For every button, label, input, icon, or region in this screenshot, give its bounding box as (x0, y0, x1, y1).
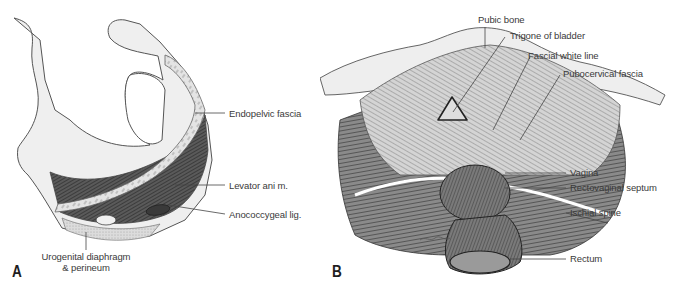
label-endopelvic-fascia: Endopelvic fascia (229, 108, 301, 119)
label-rectovaginal-septum: Rectovaginal septum (570, 182, 657, 193)
label-pubic-bone: Pubic bone (478, 14, 525, 25)
label-urogenital-diaphragm: Urogenital diaphragm & perineum (36, 251, 136, 273)
label-urogenital-line2: & perineum (36, 262, 136, 273)
panel-b-illustration (320, 0, 675, 286)
panel-a-illustration (0, 0, 330, 286)
label-anococcygeal-lig: Anococcygeal lig. (229, 209, 301, 220)
label-ischial-spine: Ischial spine (570, 207, 621, 218)
obturator-foramen (125, 73, 165, 143)
panel-b-pelvic-floor-top-view: Pubic bone Trigone of bladder Fascial wh… (320, 0, 675, 286)
vagina-structure (440, 165, 510, 221)
panel-letter-a: A (12, 263, 22, 281)
urethra-vagina-opening (96, 215, 116, 225)
label-vagina: Vagina (570, 167, 598, 178)
label-levator-ani: Levator ani m. (229, 180, 288, 191)
label-pubocervical-fascia: Pubocervical fascia (563, 68, 643, 79)
label-trigone-of-bladder: Trigone of bladder (510, 30, 585, 41)
panel-a-pelvic-floor-side-view: Endopelvic fascia Levator ani m. Anococc… (0, 0, 330, 286)
label-rectum: Rectum (570, 253, 602, 264)
rectum-lumen (450, 251, 510, 273)
panel-letter-b: B (332, 263, 342, 281)
label-fascial-white-line: Fascial white line (528, 50, 599, 61)
label-urogenital-line1: Urogenital diaphragm (36, 251, 136, 262)
